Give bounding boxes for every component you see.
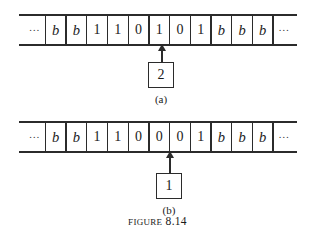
tape-cells-a: … b b 1 1 0 1 0 1 b b b … [24, 14, 293, 46]
tape-cell: 1 [86, 14, 108, 46]
figure-8-14: … b b 1 1 0 1 0 1 b b b … 2 (a) [0, 0, 315, 232]
tape-head-arrow-b [156, 151, 184, 175]
tape-b: … b b 1 1 0 0 0 1 b b b … [19, 121, 297, 153]
tape-cell: … [272, 14, 294, 46]
tape-cell: 1 [107, 121, 129, 153]
tape-cell: 0 [128, 121, 150, 153]
tape-cell-head: 1 [148, 14, 170, 46]
tape-cell: 0 [148, 121, 170, 153]
tape-cell: b [45, 14, 67, 46]
tape-cell: b [65, 14, 87, 46]
figure-caption: Figure 8.14 [0, 214, 315, 229]
tape-cell: b [231, 121, 253, 153]
tape-cell: b [65, 121, 87, 153]
tape-cell: b [252, 14, 274, 46]
tape-cells-b: … b b 1 1 0 0 0 1 b b b … [24, 121, 293, 153]
panel-sublabel-a: (a) [141, 94, 181, 105]
tape-cell: 1 [190, 121, 212, 153]
tape-head-arrow-a [148, 44, 176, 64]
figure-caption-word: Figure [128, 214, 162, 228]
tape-cell: 1 [190, 14, 212, 46]
tape-cell: … [272, 121, 294, 153]
tape-cell: … [24, 14, 46, 46]
tape-cell-head: 0 [169, 121, 191, 153]
tape-cell: 1 [86, 121, 108, 153]
tape-cell: 0 [128, 14, 150, 46]
state-box-a: 2 [148, 62, 174, 88]
tape-cell: b [252, 121, 274, 153]
tape-cell: 0 [169, 14, 191, 46]
tape-cell: b [210, 121, 232, 153]
tape-cell: … [24, 121, 46, 153]
tape-cell: b [231, 14, 253, 46]
tape-a: … b b 1 1 0 1 0 1 b b b … [19, 14, 297, 46]
tape-cell: b [210, 14, 232, 46]
tape-cell: b [45, 121, 67, 153]
state-box-b: 1 [156, 173, 182, 199]
tape-cell: 1 [107, 14, 129, 46]
figure-caption-number: 8.14 [166, 215, 187, 227]
